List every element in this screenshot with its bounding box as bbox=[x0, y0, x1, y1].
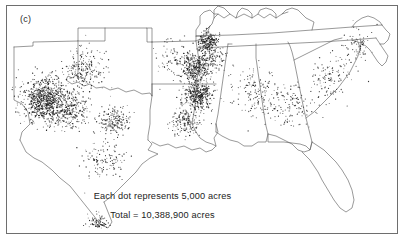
panel-label: (c) bbox=[20, 14, 31, 24]
caption-total: Total = 10,388,900 acres bbox=[0, 210, 367, 220]
map-canvas bbox=[0, 0, 409, 243]
caption-dot-value: Each dot represents 5,000 acres bbox=[0, 191, 367, 201]
dot-density-map-figure: Each dot represents 5,000 acres Total = … bbox=[0, 0, 409, 243]
